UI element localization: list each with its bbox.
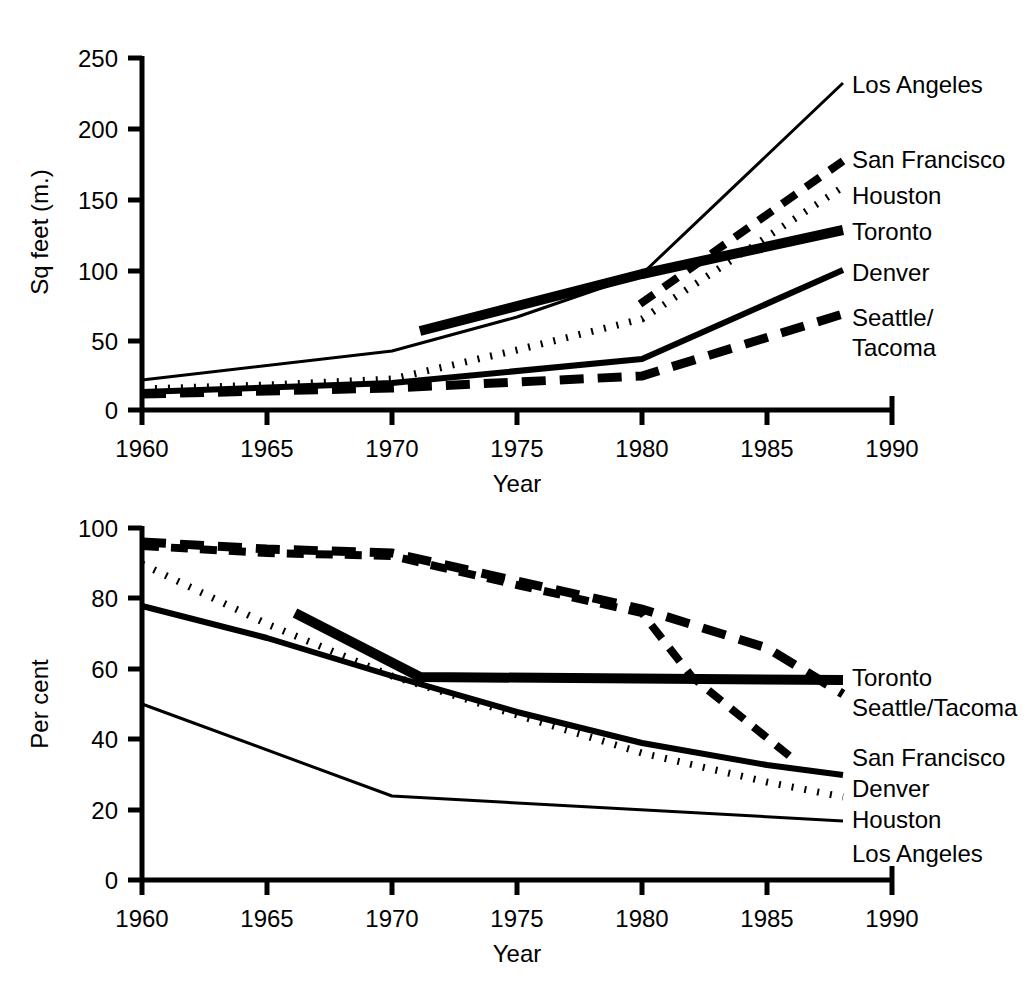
chart-top: 250 200 150 100 50 0 1960 1965 1970 1975… [26, 45, 1005, 497]
chart-top-ytick-250: 250 [78, 45, 118, 72]
chart-bottom-y-axis-title: Per cent [26, 659, 53, 749]
chart-top-xtick-1975: 1975 [490, 435, 543, 462]
chart-bottom-ytick-0: 0 [105, 867, 118, 894]
chart-bottom-xtick-1980: 1980 [615, 905, 668, 932]
chart-top-ytick-0: 0 [105, 397, 118, 424]
chart-top-xtick-1965: 1965 [240, 435, 293, 462]
chart-top-label-toronto: Toronto [852, 218, 932, 245]
chart-top-label-los-angeles: Los Angeles [852, 71, 983, 98]
chart-top-label-denver: Denver [852, 259, 929, 286]
chart-top-xtick-1980: 1980 [615, 435, 668, 462]
chart-top-series-toronto [420, 230, 843, 331]
chart-bottom-xtick-1985: 1985 [740, 905, 793, 932]
chart-top-xtick-1985: 1985 [740, 435, 793, 462]
chart-bottom-xtick-1975: 1975 [490, 905, 543, 932]
chart-bottom-label-houston: Houston [852, 806, 941, 833]
chart-bottom-ytick-20: 20 [91, 797, 118, 824]
chart-bottom-label-san-francisco: San Francisco [852, 744, 1005, 771]
chart-bottom-ytick-80: 80 [91, 585, 118, 612]
chart-bottom-ytick-40: 40 [91, 726, 118, 753]
chart-top-x-axis-title: Year [493, 470, 542, 497]
chart-bottom: 100 80 60 40 20 0 1960 1965 1970 1975 19… [26, 515, 1018, 967]
chart-top-ytick-100: 100 [78, 258, 118, 285]
charts-canvas: 250 200 150 100 50 0 1960 1965 1970 1975… [0, 0, 1033, 999]
chart-bottom-x-axis [140, 866, 893, 895]
chart-top-series-denver [142, 270, 843, 392]
chart-bottom-series-denver [142, 606, 843, 775]
chart-bottom-label-los-angeles: Los Angeles [852, 840, 983, 867]
chart-top-series-seattle-tacoma [142, 314, 843, 394]
chart-top-ytick-150: 150 [78, 187, 118, 214]
chart-bottom-label-seattle-tacoma: Seattle/Tacoma [852, 694, 1018, 721]
chart-bottom-xtick-1960: 1960 [115, 905, 168, 932]
chart-top-y-axis [128, 56, 142, 412]
chart-top-ytick-50: 50 [91, 328, 118, 355]
chart-top-label-seattle-line1: Seattle/ [852, 304, 934, 331]
chart-top-x-axis [140, 396, 893, 425]
chart-bottom-series-san-francisco [142, 546, 792, 758]
chart-bottom-y-axis [128, 526, 142, 882]
chart-top-label-houston: Houston [852, 182, 941, 209]
chart-top-xtick-1990: 1990 [865, 435, 918, 462]
chart-bottom-label-toronto: Toronto [852, 664, 932, 691]
chart-bottom-xtick-1970: 1970 [365, 905, 418, 932]
chart-top-series-houston [142, 187, 843, 389]
chart-bottom-x-axis-title: Year [493, 940, 542, 967]
chart-bottom-xtick-1990: 1990 [865, 905, 918, 932]
two-panel-line-chart-figure: 250 200 150 100 50 0 1960 1965 1970 1975… [0, 0, 1033, 999]
chart-top-ytick-200: 200 [78, 116, 118, 143]
chart-bottom-ytick-100: 100 [78, 515, 118, 542]
chart-bottom-xtick-1965: 1965 [240, 905, 293, 932]
chart-top-label-san-francisco: San Francisco [852, 146, 1005, 173]
chart-top-y-axis-title: Sq feet (m.) [26, 169, 53, 294]
chart-top-label-seattle-line2: Tacoma [852, 334, 937, 361]
chart-top-xtick-1960: 1960 [115, 435, 168, 462]
chart-bottom-label-denver: Denver [852, 775, 929, 802]
chart-top-xtick-1970: 1970 [365, 435, 418, 462]
chart-bottom-ytick-60: 60 [91, 656, 118, 683]
